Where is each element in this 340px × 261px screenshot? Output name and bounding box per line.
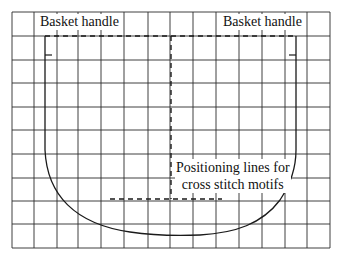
positioning-label-line2: cross stitch motifs bbox=[176, 176, 290, 193]
basket-pattern-diagram bbox=[0, 0, 340, 261]
basket-handle-label-left: Basket handle bbox=[38, 14, 121, 30]
basket-handle-label-right: Basket handle bbox=[221, 14, 304, 30]
positioning-label-line1: Positioning lines for bbox=[176, 159, 290, 176]
positioning-lines-label: Positioning lines for cross stitch motif… bbox=[175, 159, 291, 193]
